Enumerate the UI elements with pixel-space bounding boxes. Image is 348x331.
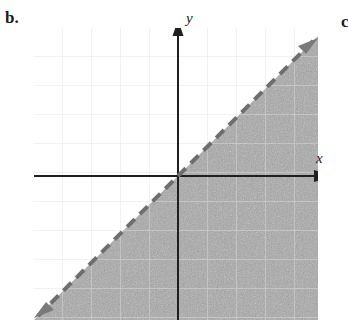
part-label-c-partial: c — [341, 13, 348, 30]
graph-svg — [34, 28, 318, 320]
x-axis-arrowhead — [314, 170, 318, 182]
part-label-b: b. — [5, 9, 19, 26]
graph-figure: b. c — [0, 0, 348, 331]
x-axis-label: x — [316, 151, 323, 166]
y-axis-label: y — [186, 11, 193, 26]
coordinate-plane — [34, 28, 318, 320]
